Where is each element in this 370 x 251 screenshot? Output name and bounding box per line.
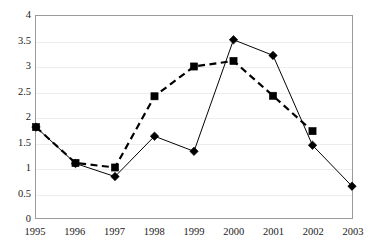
y-axis-tick-label: 3.5	[18, 36, 31, 46]
y-axis-tick-label: 1.5	[18, 138, 31, 148]
line-chart: 00.511.522.533.54 1995199619971998199920…	[0, 0, 370, 251]
y-axis-tick-label: 1	[26, 163, 31, 173]
x-axis-tick-label: 2001	[263, 226, 284, 237]
data-point-square	[32, 124, 39, 131]
y-axis-tick-label: 4	[26, 10, 31, 20]
x-axis-tick-label: 1997	[104, 226, 125, 237]
x-axis-tick-label: 1999	[184, 226, 205, 237]
data-point-square	[151, 93, 158, 100]
y-axis-tick-label: 0.5	[18, 189, 31, 199]
x-axis-tick-label: 1995	[25, 226, 46, 237]
plot-area	[35, 15, 353, 219]
x-axis-tick-label: 2003	[343, 226, 364, 237]
data-point-square	[269, 92, 276, 99]
data-point-square	[190, 63, 197, 70]
x-axis-tick-label: 2000	[223, 226, 244, 237]
series-layer	[36, 16, 352, 218]
data-point-diamond	[269, 51, 278, 60]
data-point-square	[111, 164, 118, 171]
x-axis-tick-label: 1998	[144, 226, 165, 237]
y-axis-tick-label: 0	[26, 214, 31, 224]
x-axis-tick-label: 2002	[303, 226, 324, 237]
x-axis-tick-label: 1996	[64, 226, 85, 237]
data-point-square	[72, 159, 79, 166]
data-point-diamond	[229, 35, 238, 44]
y-axis-tick-label: 3	[26, 61, 31, 71]
series-square	[32, 57, 316, 171]
y-axis-tick-label: 2	[26, 112, 31, 122]
data-point-square	[309, 128, 316, 135]
series-diamond	[32, 35, 357, 190]
y-axis-tick-label: 2.5	[18, 87, 31, 97]
data-point-square	[230, 57, 237, 64]
data-point-diamond	[190, 147, 199, 156]
series-line	[36, 61, 313, 168]
